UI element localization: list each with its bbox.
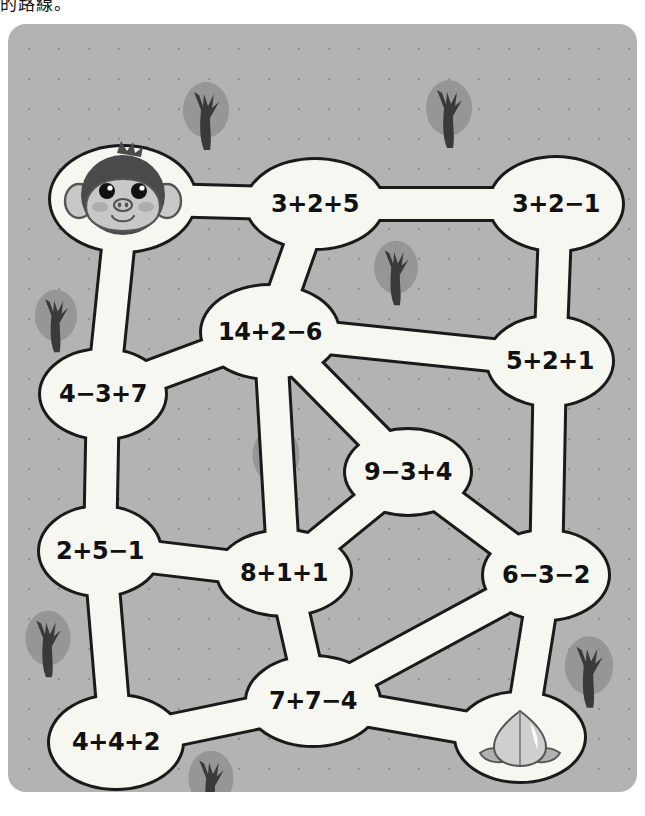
monkey-nostril-right [125, 203, 129, 208]
tree-icon [183, 82, 229, 150]
maze-node-n251[interactable]: 2+5−1 [56, 537, 144, 565]
monkey-cheek-right [138, 202, 154, 212]
tree-icon [188, 751, 233, 792]
worksheet-page: 的路線。 3+2+53+2−114+2−65+2+14−3+79−3+42+5−… [0, 0, 645, 816]
monkey-eye-left [99, 183, 115, 199]
tree-icon [35, 290, 77, 353]
tree-icon [25, 611, 70, 678]
monkey-eye-right [131, 183, 147, 199]
maze-node-n632[interactable]: 6−3−2 [502, 561, 590, 589]
maze-node-n321[interactable]: 3+2−1 [512, 190, 600, 218]
maze-node-n934[interactable]: 9−3+4 [364, 458, 452, 486]
maze-node-n1426[interactable]: 14+2−6 [218, 318, 322, 346]
maze-node-n774[interactable]: 7+7−4 [269, 687, 357, 715]
maze-node-n811[interactable]: 8+1+1 [240, 559, 328, 587]
tree-icon [374, 241, 418, 306]
maze-node-n325[interactable]: 3+2+5 [271, 190, 359, 218]
tree-icon [565, 636, 613, 707]
monkey-eye-glint-right [139, 185, 144, 190]
monkey-nostril-left [118, 203, 122, 208]
monkey-cheek-left [92, 202, 108, 212]
maze-graphics [8, 24, 637, 792]
tree-icon [426, 80, 472, 148]
maze-node-n437[interactable]: 4−3+7 [59, 380, 147, 408]
monkey-eye-glint-left [107, 185, 112, 190]
page-caption: 的路線。 [0, 0, 200, 17]
maze-board: 3+2+53+2−114+2−65+2+14−3+79−3+42+5−18+1+… [8, 24, 637, 792]
maze-node-n442[interactable]: 4+4+2 [72, 728, 160, 756]
maze-node-n521[interactable]: 5+2+1 [506, 347, 594, 375]
